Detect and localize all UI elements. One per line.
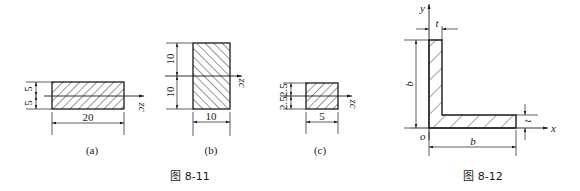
section-rect-a: [52, 82, 124, 109]
axis-label-zc-a: zc: [137, 101, 149, 111]
dim-a-h1: 5: [22, 86, 34, 92]
axis-label-zc-c: zc: [348, 98, 360, 108]
panel-a: 5 5 20 zc (a): [22, 82, 149, 157]
dim-height-b: b: [403, 81, 415, 87]
panel-label-a: (a): [86, 144, 99, 157]
dim-b-h2: 10: [164, 86, 176, 98]
dim-a-width: 20: [83, 111, 95, 123]
angle-section: [429, 40, 516, 128]
diagram-canvas: 5 5 20 zc (a) 10 10 10 zc (b) 2.5 2.5: [0, 0, 580, 191]
dim-c-width: 5: [319, 110, 325, 122]
axis-label-zc-b: zc: [237, 77, 249, 87]
figure-caption-8-11: 图 8-11: [170, 170, 209, 183]
dim-a-h2: 5: [22, 100, 34, 106]
panel-b: 10 10 10 zc (b): [164, 43, 249, 157]
panel-label-c: (c): [314, 144, 327, 157]
dim-c-h2: 2.5: [277, 96, 289, 110]
y-axis-label: y: [419, 2, 425, 14]
figure-8-12: y x o t b b t: [403, 2, 556, 156]
origin-label: o: [420, 130, 426, 142]
figure-caption-8-12: 图 8-12: [463, 170, 502, 183]
dim-b-width: 10: [206, 110, 218, 122]
panel-c: 2.5 2.5 5 zc (c): [277, 83, 360, 157]
dim-c-h1: 2.5: [277, 83, 289, 97]
dim-thickness-right: t: [521, 119, 533, 123]
dim-thickness-top: t: [435, 17, 439, 29]
dim-b-h1: 10: [164, 53, 176, 65]
dim-width-b: b: [470, 135, 476, 147]
x-axis-label: x: [550, 122, 556, 134]
panel-label-b: (b): [205, 144, 218, 157]
